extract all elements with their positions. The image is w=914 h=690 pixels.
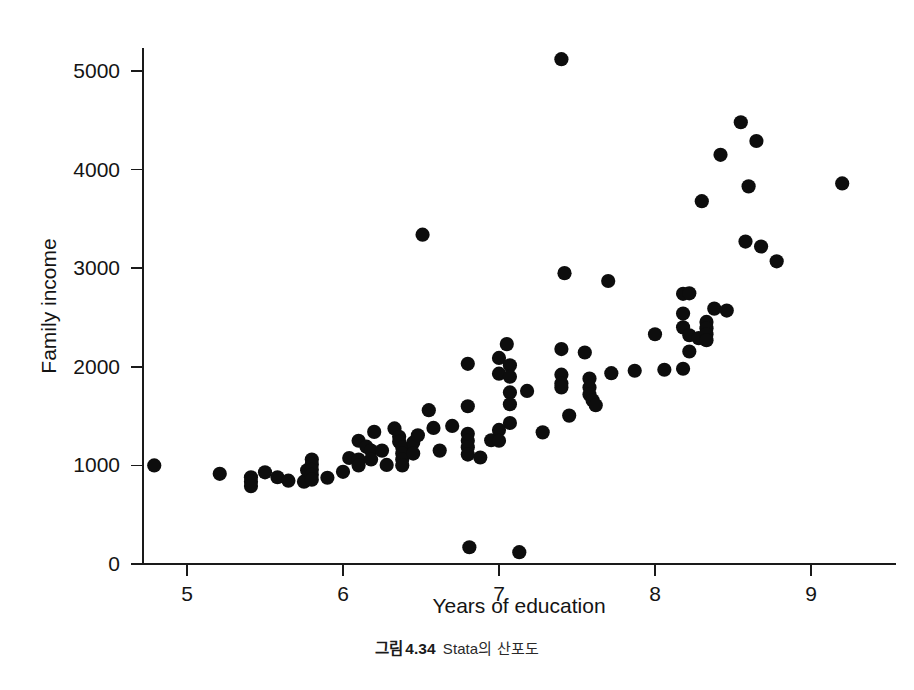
scatter-point bbox=[461, 447, 475, 461]
x-tick-label: 6 bbox=[337, 582, 349, 605]
scatter-point bbox=[578, 345, 592, 359]
scatter-point bbox=[554, 380, 568, 394]
scatter-plot-figure: 010002000300040005000 56789 Years of edu… bbox=[0, 0, 914, 690]
y-tick-label: 1000 bbox=[73, 453, 120, 476]
scatter-point bbox=[352, 458, 366, 472]
scatter-point bbox=[604, 366, 618, 380]
scatter-plot-canvas: 010002000300040005000 56789 Years of edu… bbox=[0, 0, 914, 620]
scatter-point bbox=[305, 473, 319, 487]
scatter-point bbox=[657, 363, 671, 377]
scatter-point bbox=[258, 465, 272, 479]
scatter-point bbox=[461, 357, 475, 371]
scatter-point bbox=[433, 444, 447, 458]
scatter-point bbox=[734, 115, 748, 129]
x-axis-title: Years of education bbox=[432, 594, 605, 617]
x-tick-label: 8 bbox=[649, 582, 661, 605]
scatter-point bbox=[492, 434, 506, 448]
y-axis-title: Family income bbox=[37, 238, 60, 373]
scatter-point bbox=[536, 425, 550, 439]
figure-caption: 그림4.34Stata의 산포도 bbox=[0, 636, 914, 658]
scatter-point bbox=[676, 306, 690, 320]
y-tick-label: 0 bbox=[108, 552, 120, 575]
scatter-point bbox=[682, 344, 696, 358]
scatter-point bbox=[406, 446, 420, 460]
scatter-point bbox=[713, 148, 727, 162]
scatter-point bbox=[557, 266, 571, 280]
scatter-point bbox=[462, 540, 476, 554]
scatter-point bbox=[707, 302, 721, 316]
y-tick-label: 5000 bbox=[73, 59, 120, 82]
scatter-point bbox=[461, 399, 475, 413]
scatter-point bbox=[749, 134, 763, 148]
scatter-point bbox=[380, 458, 394, 472]
scatter-point bbox=[562, 409, 576, 423]
scatter-point bbox=[835, 176, 849, 190]
scatter-point bbox=[754, 239, 768, 253]
scatter-point bbox=[375, 444, 389, 458]
x-tick-label: 9 bbox=[805, 582, 817, 605]
scatter-point bbox=[676, 362, 690, 376]
scatter-point bbox=[367, 425, 381, 439]
scatter-point bbox=[503, 397, 517, 411]
caption-number: 4.34 bbox=[405, 640, 436, 657]
scatter-point bbox=[503, 416, 517, 430]
scatter-point bbox=[738, 234, 752, 248]
scatter-point bbox=[320, 471, 334, 485]
scatter-point bbox=[648, 327, 662, 341]
scatter-point bbox=[422, 403, 436, 417]
scatter-point bbox=[244, 479, 258, 493]
caption-prefix: 그림 bbox=[375, 640, 403, 657]
scatter-point bbox=[415, 228, 429, 242]
scatter-point bbox=[336, 465, 350, 479]
caption-text: Stata의 산포도 bbox=[443, 640, 539, 657]
y-tick-label: 3000 bbox=[73, 256, 120, 279]
scatter-point bbox=[364, 452, 378, 466]
scatter-point bbox=[395, 458, 409, 472]
scatter-point bbox=[699, 333, 713, 347]
scatter-point bbox=[500, 337, 514, 351]
scatter-point bbox=[147, 458, 161, 472]
y-axis-ticks: 010002000300040005000 bbox=[73, 59, 143, 575]
scatter-point bbox=[554, 52, 568, 66]
scatter-point bbox=[554, 342, 568, 356]
data-points bbox=[147, 52, 849, 559]
y-tick-label: 2000 bbox=[73, 355, 120, 378]
scatter-point bbox=[601, 274, 615, 288]
scatter-point bbox=[281, 474, 295, 488]
scatter-point bbox=[411, 428, 425, 442]
scatter-point bbox=[512, 545, 526, 559]
scatter-point bbox=[426, 421, 440, 435]
scatter-point bbox=[445, 419, 459, 433]
scatter-point bbox=[503, 370, 517, 384]
scatter-point bbox=[770, 254, 784, 268]
x-tick-label: 5 bbox=[181, 582, 193, 605]
scatter-point bbox=[695, 194, 709, 208]
scatter-point bbox=[213, 467, 227, 481]
y-tick-label: 4000 bbox=[73, 158, 120, 181]
scatter-point bbox=[742, 179, 756, 193]
scatter-point bbox=[628, 364, 642, 378]
scatter-point bbox=[720, 304, 734, 318]
scatter-point bbox=[589, 398, 603, 412]
scatter-point bbox=[473, 450, 487, 464]
scatter-point bbox=[520, 384, 534, 398]
scatter-point bbox=[682, 286, 696, 300]
